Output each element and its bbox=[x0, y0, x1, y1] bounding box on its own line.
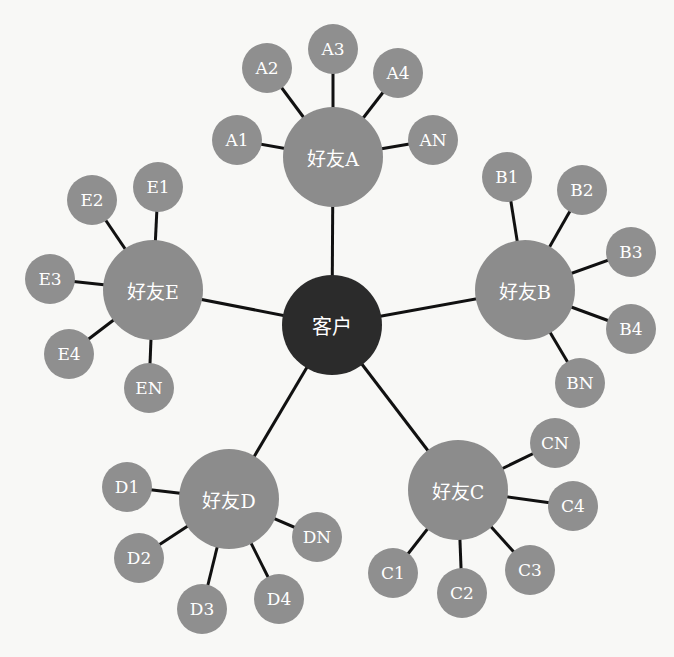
friend-leaf-node: D3 bbox=[177, 584, 227, 634]
friend-hub-node: 好友A bbox=[283, 107, 383, 207]
friend-leaf-node: C2 bbox=[437, 568, 487, 618]
friend-leaf-node-label: A4 bbox=[386, 63, 409, 83]
friend-hub-node-label: 好友E bbox=[127, 277, 179, 304]
friend-leaf-node: E4 bbox=[44, 329, 94, 379]
friend-leaf-node-label: A2 bbox=[255, 58, 278, 78]
customer-network-diagram: 客户好友AA1A2A3A4AN好友BB1B2B3B4BN好友CC1C2C3C4C… bbox=[0, 0, 674, 657]
friend-hub-node: 好友C bbox=[408, 440, 508, 540]
friend-leaf-node: D2 bbox=[114, 533, 164, 583]
friend-leaf-node-label: EN bbox=[135, 378, 162, 398]
friend-hub-node-label: 好友A bbox=[307, 144, 359, 171]
friend-leaf-node-label: D3 bbox=[190, 599, 214, 619]
friend-leaf-node-label: D2 bbox=[127, 548, 151, 568]
friend-leaf-node: A2 bbox=[242, 43, 292, 93]
friend-leaf-node-label: D4 bbox=[267, 589, 291, 609]
friend-leaf-node: CN bbox=[530, 418, 580, 468]
friend-leaf-node-label: E1 bbox=[146, 177, 169, 197]
friend-leaf-node-label: E3 bbox=[38, 269, 61, 289]
customer-node: 客户 bbox=[282, 275, 382, 375]
friend-hub-node: 好友B bbox=[475, 240, 575, 340]
friend-leaf-node: D1 bbox=[102, 462, 152, 512]
friend-leaf-node-label: C3 bbox=[518, 560, 542, 580]
friend-leaf-node-label: A3 bbox=[321, 39, 344, 59]
friend-leaf-node-label: B4 bbox=[619, 319, 642, 339]
friend-leaf-node: A1 bbox=[212, 115, 262, 165]
friend-leaf-node-label: B1 bbox=[495, 167, 518, 187]
friend-leaf-node: B1 bbox=[482, 152, 532, 202]
customer-node-label: 客户 bbox=[312, 311, 352, 340]
friend-leaf-node: B2 bbox=[557, 165, 607, 215]
friend-leaf-node: E3 bbox=[25, 254, 75, 304]
friend-leaf-node-label: C2 bbox=[450, 583, 474, 603]
friend-hub-node-label: 好友D bbox=[202, 486, 255, 513]
friend-leaf-node: DN bbox=[292, 512, 342, 562]
friend-leaf-node: C4 bbox=[548, 481, 598, 531]
friend-leaf-node: D4 bbox=[254, 574, 304, 624]
friend-leaf-node-label: B2 bbox=[570, 180, 593, 200]
friend-hub-node-label: 好友B bbox=[499, 277, 551, 304]
friend-leaf-node-label: BN bbox=[566, 373, 593, 393]
friend-leaf-node: B3 bbox=[606, 227, 656, 277]
friend-leaf-node-label: C1 bbox=[381, 563, 405, 583]
friend-leaf-node: C3 bbox=[505, 545, 555, 595]
friend-leaf-node: AN bbox=[408, 115, 458, 165]
friend-leaf-node-label: E4 bbox=[57, 344, 80, 364]
friend-leaf-node-label: C4 bbox=[561, 496, 585, 516]
friend-leaf-node-label: A1 bbox=[225, 130, 248, 150]
friend-leaf-node-label: E2 bbox=[80, 190, 103, 210]
friend-leaf-node-label: CN bbox=[541, 433, 569, 453]
friend-leaf-node-label: AN bbox=[419, 130, 446, 150]
friend-leaf-node-label: D1 bbox=[115, 477, 139, 497]
friend-leaf-node-label: DN bbox=[303, 527, 332, 547]
friend-hub-node: 好友D bbox=[179, 449, 279, 549]
friend-leaf-node: B4 bbox=[606, 304, 656, 354]
friend-hub-node: 好友E bbox=[103, 240, 203, 340]
friend-leaf-node: E2 bbox=[67, 175, 117, 225]
friend-leaf-node: C1 bbox=[368, 548, 418, 598]
friend-leaf-node: BN bbox=[555, 358, 605, 408]
friend-leaf-node-label: B3 bbox=[619, 242, 642, 262]
friend-leaf-node: A3 bbox=[308, 24, 358, 74]
friend-leaf-node: E1 bbox=[133, 162, 183, 212]
friend-hub-node-label: 好友C bbox=[432, 477, 485, 504]
friend-leaf-node: A4 bbox=[373, 48, 423, 98]
friend-leaf-node: EN bbox=[124, 363, 174, 413]
